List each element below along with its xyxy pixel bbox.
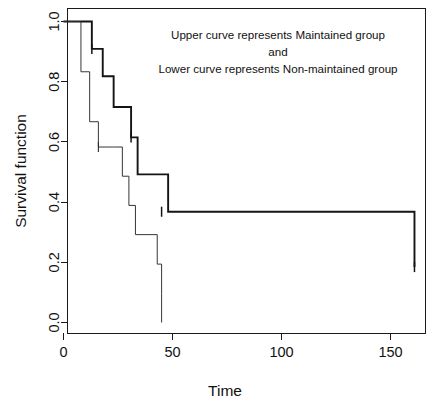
survival-curve-non-maintained (64, 22, 162, 323)
annotation-line-3: Lower curve represents Non-maintained gr… (158, 62, 397, 75)
y-axis-title: Survival function (12, 114, 29, 228)
annotation-line-2: and (268, 45, 287, 58)
x-axis-title: Time (208, 382, 242, 399)
x-tick-label-50: 50 (164, 344, 180, 360)
plot-frame (68, 9, 426, 334)
x-axis-tick-labels: 0 50 100 150 (59, 344, 402, 360)
annotation-line-1: Upper curve represents Maintained group (171, 28, 385, 41)
y-axis-ticks (61, 22, 67, 323)
y-tick-label-0.2: 0.2 (46, 252, 62, 272)
chart-page: 1.0 0.8 0.6 0.4 0.2 0.0 0 50 100 150 Sur… (0, 0, 434, 410)
x-tick-label-0: 0 (59, 344, 67, 360)
y-tick-label-0.4: 0.4 (46, 192, 62, 212)
annotation-block: Upper curve represents Maintained group … (158, 28, 397, 75)
survival-curve-maintained (64, 22, 415, 268)
y-tick-label-0.0: 0.0 (46, 312, 62, 332)
x-tick-label-150: 150 (378, 344, 402, 360)
survival-plot: 1.0 0.8 0.6 0.4 0.2 0.0 0 50 100 150 Sur… (0, 0, 434, 410)
y-tick-label-0.8: 0.8 (46, 72, 62, 92)
y-tick-label-0.6: 0.6 (46, 132, 62, 152)
censor-marks-maintained (92, 44, 415, 272)
y-tick-label-1.0: 1.0 (46, 11, 62, 31)
x-tick-label-100: 100 (269, 344, 293, 360)
y-axis-tick-labels: 1.0 0.8 0.6 0.4 0.2 0.0 (46, 11, 62, 332)
